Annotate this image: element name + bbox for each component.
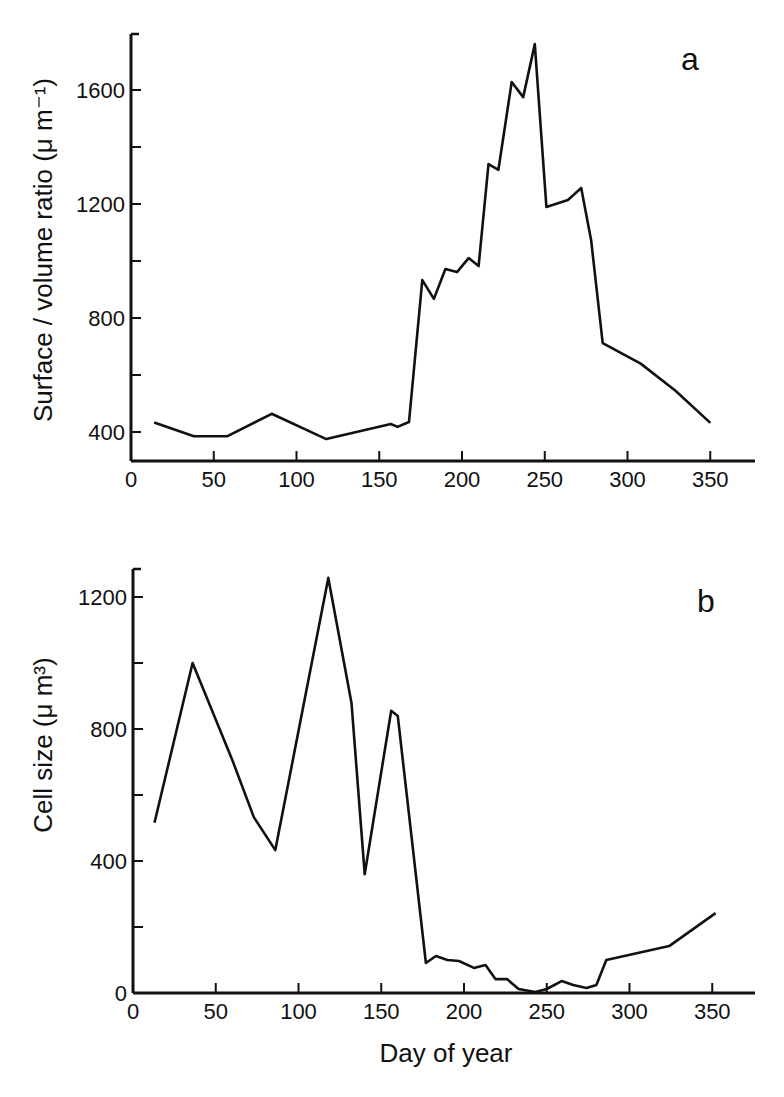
x-tick-label: 250 — [528, 999, 565, 1024]
panel-a-data-line — [154, 44, 710, 439]
x-tick-label: 0 — [127, 999, 139, 1024]
x-tick-label: 200 — [446, 999, 483, 1024]
x-tick-label: 150 — [361, 467, 398, 492]
x-tick-label: 50 — [204, 999, 228, 1024]
x-tick-label: 150 — [363, 999, 400, 1024]
panel-a-axes: 40080012001600050100150200250300350 — [76, 34, 755, 492]
panel-a-label: a — [681, 41, 699, 77]
x-tick-label: 300 — [611, 999, 648, 1024]
x-tick-label: 0 — [125, 467, 137, 492]
y-tick-label: 1200 — [76, 192, 125, 217]
x-tick-label: 50 — [202, 467, 226, 492]
x-tick-label: 250 — [526, 467, 563, 492]
y-tick-label: 400 — [88, 420, 125, 445]
x-axis-title: Day of year — [380, 1038, 513, 1068]
x-tick-label: 100 — [280, 999, 317, 1024]
figure: 40080012001600050100150200250300350 a Su… — [0, 0, 784, 1097]
y-tick-label: 1600 — [76, 78, 125, 103]
y-tick-label: 1200 — [78, 585, 127, 610]
y-tick-label: 800 — [88, 306, 125, 331]
y-tick-label: 0 — [115, 981, 127, 1006]
x-tick-label: 350 — [694, 999, 731, 1024]
panel-b: 04008001200050100150200250300350 b Cell … — [28, 569, 755, 1024]
panel-b-y-axis-title: Cell size (μ m³) — [28, 657, 58, 832]
panel-a: 40080012001600050100150200250300350 a Su… — [28, 34, 755, 492]
panel-a-y-axis-title: Surface / volume ratio (μ m⁻¹) — [28, 78, 58, 422]
panel-b-data-line — [155, 578, 716, 992]
x-tick-label: 200 — [444, 467, 481, 492]
panel-b-axes: 04008001200050100150200250300350 — [78, 569, 755, 1024]
x-tick-label: 100 — [278, 467, 315, 492]
y-tick-label: 800 — [90, 717, 127, 742]
x-tick-label: 350 — [692, 467, 729, 492]
y-tick-label: 400 — [90, 849, 127, 874]
x-tick-label: 300 — [609, 467, 646, 492]
panel-b-label: b — [697, 583, 715, 619]
